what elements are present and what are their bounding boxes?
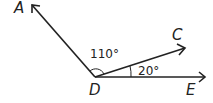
label-a: A xyxy=(13,0,24,17)
label-d: D xyxy=(89,81,101,99)
angle-arc-cde xyxy=(130,66,131,77)
label-e: E xyxy=(186,81,196,99)
angle-diagram: A C E D 110° 20° xyxy=(0,0,213,103)
label-c: C xyxy=(172,26,183,44)
angle-value-cde: 20° xyxy=(138,64,159,78)
angle-value-adc: 110° xyxy=(90,47,119,61)
ray-da xyxy=(32,5,95,77)
